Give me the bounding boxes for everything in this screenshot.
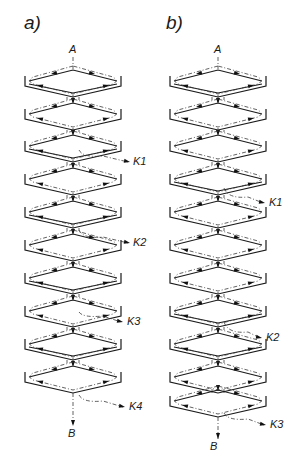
inlet-label-b: A bbox=[214, 44, 221, 55]
outlet-label-b: B bbox=[210, 441, 217, 452]
diagram-canvas bbox=[0, 0, 297, 456]
stage-plate-top bbox=[29, 234, 117, 245]
stage-plate-top bbox=[29, 168, 117, 179]
stage-plate-top bbox=[174, 366, 262, 377]
stage-plate-top bbox=[174, 103, 262, 114]
side-stream-label-a-k3: K3 bbox=[127, 316, 140, 327]
flow-arrow-icon bbox=[103, 117, 109, 121]
panel-label-a: a) bbox=[24, 12, 41, 34]
stage-plate-top bbox=[174, 135, 262, 146]
flow-arrow-icon bbox=[37, 380, 43, 384]
flow-arrow-icon bbox=[182, 215, 188, 219]
flow-arrow-icon bbox=[103, 182, 109, 186]
side-stream-label-b-k2: K2 bbox=[266, 332, 279, 343]
side-stream-arrow-icon bbox=[124, 240, 130, 244]
flow-arrow-icon bbox=[248, 117, 254, 121]
panel-label-b: b) bbox=[166, 12, 183, 34]
flow-arrow-icon bbox=[37, 248, 43, 252]
side-stream-arrow-icon bbox=[259, 200, 265, 204]
outlet-arrow-icon bbox=[216, 433, 220, 439]
side-stream-arrow-icon bbox=[260, 422, 266, 426]
flow-arrow-icon bbox=[248, 281, 254, 285]
stage-plate-top bbox=[174, 168, 262, 179]
side-stream-line bbox=[224, 188, 263, 203]
flow-arrow-icon bbox=[182, 248, 188, 252]
outlet-label-a: B bbox=[68, 428, 75, 439]
stage-plate-top bbox=[174, 267, 262, 278]
stage-plate-top bbox=[174, 201, 262, 212]
side-stream-arrow-icon bbox=[119, 404, 125, 408]
stage-plate-top bbox=[174, 390, 262, 401]
side-stream-arrow-icon bbox=[256, 335, 262, 339]
side-stream-arrow-icon bbox=[117, 319, 123, 323]
side-stream-arrow-icon bbox=[124, 159, 130, 163]
flow-arrow-icon bbox=[37, 117, 43, 121]
stage-plate-top bbox=[29, 300, 117, 311]
flow-arrow-icon bbox=[103, 380, 109, 384]
stage-plate-top bbox=[174, 70, 262, 81]
flow-arrow-icon bbox=[248, 380, 254, 384]
stage-plate-top bbox=[29, 267, 117, 278]
stage-plate-top bbox=[174, 333, 262, 344]
stage-plate-top bbox=[29, 103, 117, 114]
side-stream-line bbox=[79, 395, 123, 407]
flow-arrow-icon bbox=[182, 404, 188, 408]
flow-arrow-icon bbox=[248, 215, 254, 219]
side-stream-label-b-k3: K3 bbox=[270, 419, 283, 430]
stage-plate-top bbox=[29, 366, 117, 377]
side-stream-label-a-k1: K1 bbox=[133, 156, 146, 167]
flow-arrow-icon bbox=[248, 404, 254, 408]
flow-arrow-icon bbox=[182, 117, 188, 121]
stage-plate-top bbox=[29, 201, 117, 212]
stage-plate-top bbox=[174, 300, 262, 311]
outlet-arrow-icon bbox=[71, 420, 75, 426]
side-stream-label-a-k2: K2 bbox=[133, 237, 146, 248]
flow-arrow-icon bbox=[182, 380, 188, 384]
flow-arrow-icon bbox=[182, 281, 188, 285]
side-stream-label-b-k1: K1 bbox=[269, 197, 282, 208]
column-diagram bbox=[0, 0, 297, 456]
flow-arrow-icon bbox=[37, 314, 43, 318]
inlet-label-a: A bbox=[69, 44, 76, 55]
flow-arrow-icon bbox=[103, 248, 109, 252]
flow-arrow-icon bbox=[182, 149, 188, 153]
flow-arrow-icon bbox=[37, 182, 43, 186]
flow-arrow-icon bbox=[248, 149, 254, 153]
side-stream-label-a-k4: K4 bbox=[129, 401, 142, 412]
stage-plate-top bbox=[174, 234, 262, 245]
stage-plate-top bbox=[29, 333, 117, 344]
flow-arrow-icon bbox=[248, 248, 254, 252]
stage-plate-top bbox=[29, 70, 117, 81]
stage-plate-top bbox=[29, 135, 117, 146]
